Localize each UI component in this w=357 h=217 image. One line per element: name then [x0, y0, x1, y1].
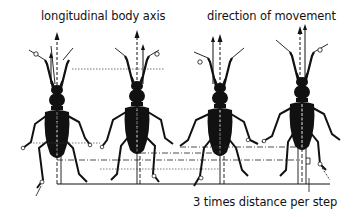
- label-longitudinal-body-axis: longitudinal body axis: [41, 9, 165, 23]
- beetle-4: [262, 40, 340, 180]
- label-distance-per-step: 3 times distance per step: [193, 195, 337, 209]
- arrow-head-icon: [55, 32, 60, 40]
- beetle-3: [180, 48, 258, 186]
- beetle-gait-diagram: [0, 0, 357, 217]
- label-direction-of-movement: direction of movement: [207, 9, 336, 23]
